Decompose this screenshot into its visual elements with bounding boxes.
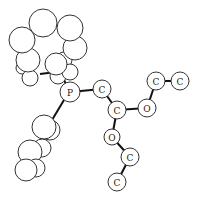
molecule-svg: PCCOCCOCC xyxy=(0,0,206,201)
atom-o: O xyxy=(104,129,120,145)
atom-p: P xyxy=(60,82,80,102)
svg-text:C: C xyxy=(114,106,121,116)
upper-cluster xyxy=(9,9,87,86)
svg-text:C: C xyxy=(127,153,134,163)
atom-o: O xyxy=(138,99,156,117)
svg-text:C: C xyxy=(99,85,106,95)
svg-text:O: O xyxy=(143,104,150,114)
svg-text:C: C xyxy=(153,77,160,87)
svg-text:C: C xyxy=(114,178,121,188)
atom-c: C xyxy=(108,101,126,119)
svg-text:P: P xyxy=(67,88,73,98)
svg-text:C: C xyxy=(177,77,184,87)
atom-c: C xyxy=(121,148,139,166)
atom-c: C xyxy=(147,72,165,90)
lower-cluster xyxy=(15,100,64,181)
atom-c: C xyxy=(171,72,189,90)
bonds xyxy=(70,81,180,182)
atom-c: C xyxy=(108,173,126,191)
atom-c: C xyxy=(93,80,111,98)
molecule-diagram: PCCOCCOCC xyxy=(0,0,206,201)
labeled-atoms: PCCOCCOCC xyxy=(60,72,189,191)
svg-text:O: O xyxy=(108,133,115,143)
